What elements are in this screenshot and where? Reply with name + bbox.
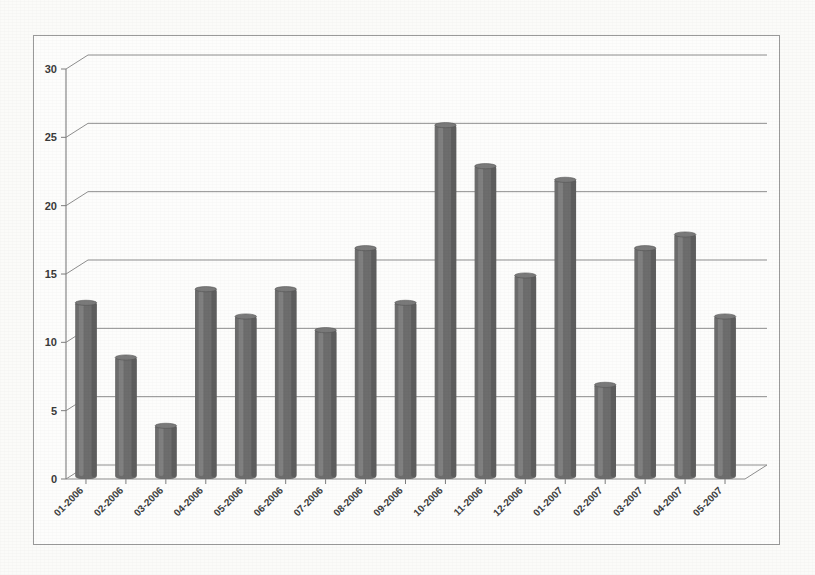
x-tick-label: 05-2007	[691, 484, 725, 518]
bar[interactable]	[115, 355, 137, 479]
x-tick-label: 02-2007	[571, 484, 605, 518]
bar-top-cap	[315, 328, 337, 333]
gridline	[66, 192, 767, 206]
y-tick-label: 5	[51, 405, 57, 417]
bar-shadow	[251, 317, 256, 477]
x-tick-label: 10-2006	[411, 484, 445, 518]
bar-highlight	[199, 291, 204, 476]
bar-highlight	[398, 304, 403, 476]
x-tick-label: 01-2006	[52, 484, 86, 518]
gridline	[66, 328, 767, 342]
bar[interactable]	[515, 273, 537, 479]
bar-shadow	[611, 385, 616, 477]
bar-highlight	[518, 277, 523, 476]
bar-shadow	[211, 290, 216, 477]
bar-shadow	[731, 317, 736, 477]
bar[interactable]	[235, 314, 257, 479]
bar[interactable]	[594, 382, 616, 479]
bar-highlight	[638, 250, 643, 476]
bar-chart-plot: 05101520253001-200602-200603-200604-2006…	[34, 36, 779, 544]
x-tick-label: 05-2006	[211, 484, 245, 518]
bar-top-cap	[355, 246, 377, 251]
bar-shadow	[531, 276, 536, 477]
bar[interactable]	[395, 300, 417, 479]
bar-top-cap	[395, 300, 417, 305]
x-tick-label: 06-2006	[251, 484, 285, 518]
bar-highlight	[358, 250, 363, 476]
x-tick-label: 02-2006	[92, 484, 126, 518]
x-tick-label: 09-2006	[371, 484, 405, 518]
bar-top-cap	[475, 164, 497, 169]
x-tick-label: 08-2006	[331, 484, 365, 518]
bar-shadow	[291, 290, 296, 477]
bar-highlight	[159, 427, 164, 476]
bar-top-cap	[75, 300, 97, 305]
bar-shadow	[171, 426, 176, 477]
bar-shadow	[691, 235, 696, 477]
y-tick-label: 15	[45, 268, 57, 280]
bar-highlight	[279, 291, 284, 476]
bar-highlight	[678, 236, 683, 476]
bar-top-cap	[195, 287, 217, 292]
gridline	[66, 55, 767, 69]
bar-highlight	[478, 168, 483, 476]
bar[interactable]	[75, 300, 97, 479]
bar[interactable]	[195, 287, 217, 479]
bar-shadow	[371, 249, 376, 477]
bar-highlight	[598, 386, 603, 476]
y-tick-label: 30	[45, 63, 57, 75]
x-tick-label: 04-2006	[171, 484, 205, 518]
x-tick-label: 03-2006	[132, 484, 166, 518]
bar-top-cap	[634, 246, 656, 251]
bar[interactable]	[714, 314, 736, 479]
bar-highlight	[319, 332, 324, 476]
bar-highlight	[239, 318, 244, 476]
bar[interactable]	[275, 287, 297, 479]
bar-highlight	[438, 127, 443, 476]
bar[interactable]	[554, 177, 576, 479]
bar-shadow	[451, 126, 456, 477]
page-root: 05101520253001-200602-200603-200604-2006…	[0, 0, 815, 575]
bar[interactable]	[475, 164, 497, 479]
x-tick-label: 03-2007	[611, 484, 645, 518]
bar-shadow	[651, 249, 656, 477]
x-tick-label: 04-2007	[651, 484, 685, 518]
bar-highlight	[119, 359, 124, 476]
gridline	[66, 397, 767, 411]
bar[interactable]	[355, 246, 377, 479]
bar[interactable]	[435, 123, 457, 479]
y-tick-label: 20	[45, 200, 57, 212]
bar-shadow	[92, 303, 97, 477]
bar-top-cap	[515, 273, 537, 278]
x-tick-label: 12-2006	[491, 484, 525, 518]
y-tick-label: 25	[45, 131, 57, 143]
bar-top-cap	[435, 123, 457, 128]
bar-shadow	[411, 303, 416, 477]
bar-shadow	[331, 331, 336, 477]
bar-top-cap	[235, 314, 257, 319]
x-tick-label: 01-2007	[531, 484, 565, 518]
bar[interactable]	[315, 328, 337, 479]
x-tick-label: 07-2006	[291, 484, 325, 518]
chart-frame: 05101520253001-200602-200603-200604-2006…	[33, 35, 780, 545]
x-tick-label: 11-2006	[451, 484, 485, 518]
bar-top-cap	[714, 314, 736, 319]
gridline	[66, 123, 767, 137]
gridline	[66, 260, 767, 274]
bar-top-cap	[115, 355, 137, 360]
bar-highlight	[558, 181, 563, 476]
bar-top-cap	[554, 177, 576, 182]
bar-highlight	[79, 304, 84, 476]
bar-top-cap	[275, 287, 297, 292]
bar-top-cap	[155, 423, 177, 428]
bar[interactable]	[634, 246, 656, 479]
bar-shadow	[571, 180, 576, 477]
bar[interactable]	[674, 232, 696, 479]
bar[interactable]	[155, 423, 177, 479]
bar-top-cap	[674, 232, 696, 237]
bar-highlight	[718, 318, 723, 476]
y-tick-label: 10	[45, 336, 57, 348]
bar-shadow	[491, 167, 496, 477]
bar-top-cap	[594, 382, 616, 387]
y-tick-label: 0	[51, 473, 57, 485]
